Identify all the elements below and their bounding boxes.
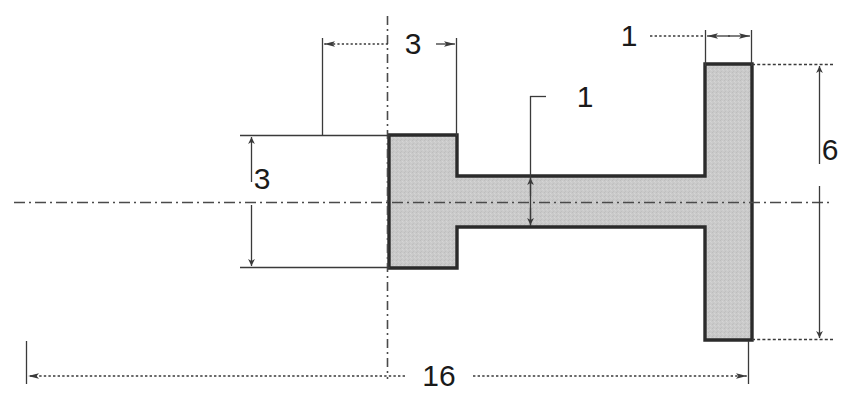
dimension-label-left-flange-height: 3 [254, 162, 271, 195]
dimension-label-overall-length: 16 [422, 359, 455, 392]
technical-drawing-canvas: 3 1 1 3 [0, 0, 846, 397]
dimension-left-flange-height: 3 [240, 136, 390, 268]
dimension-label-right-flange-thickness: 1 [621, 19, 638, 52]
dimension-label-right-flange-height: 6 [822, 133, 839, 166]
dimension-left-flange-offset: 3 [323, 27, 457, 136]
dimension-label-left-flange-offset: 3 [405, 27, 422, 60]
dimension-label-web-thickness: 1 [577, 80, 594, 113]
dimension-right-flange-thickness: 1 [621, 19, 752, 66]
engineering-drawing-svg: 3 1 1 3 [0, 0, 846, 397]
